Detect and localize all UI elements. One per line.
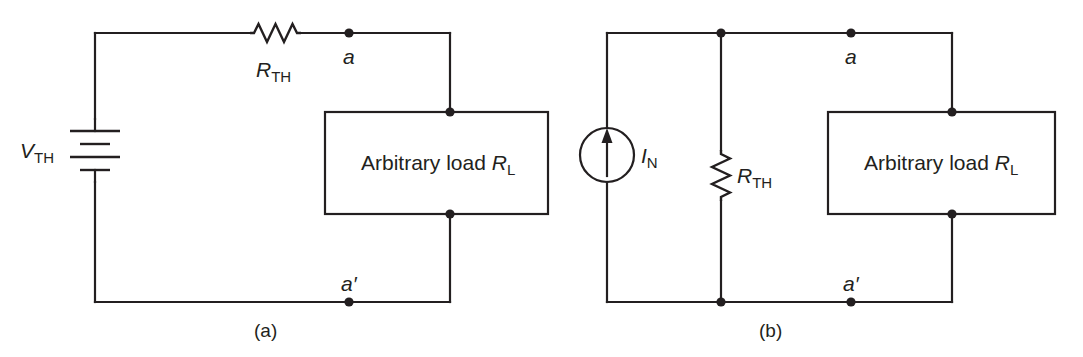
node-dot-b-load-bottom	[947, 209, 956, 218]
node-dot-a-load-top	[445, 107, 454, 116]
shunt-resistor-label-b-main: R	[737, 164, 752, 187]
node-dot-a-terminal-a	[344, 28, 353, 37]
load-label-b-main: Arbitrary load	[864, 151, 995, 174]
terminal-label-a-a: a	[343, 45, 355, 68]
load-label-a: Arbitrary load RL	[361, 151, 515, 178]
battery-icon-a	[70, 119, 120, 182]
circuit-diagram-canvas: VTH RTH a a′ Arbitrary load RL (a)	[0, 0, 1083, 357]
node-dot-a-terminal-a-prime	[344, 297, 353, 306]
figure-root: VTH RTH a a′ Arbitrary load RL (a)	[0, 0, 1083, 357]
load-label-b-sub: L	[1010, 161, 1018, 178]
shunt-resistor-label-b: RTH	[737, 164, 772, 191]
source-label-b: IN	[641, 144, 658, 171]
panel-b: IN RTH a a′ Arbitrary load RL (b)	[580, 28, 1055, 341]
load-label-b-var: R	[995, 151, 1010, 174]
terminal-label-b-a-prime: a′	[843, 272, 860, 295]
series-resistor-label-a-main: R	[256, 58, 271, 81]
node-dot-b-terminal-a	[846, 28, 855, 37]
shunt-resistor-label-b-sub: TH	[752, 174, 772, 191]
series-resistor-label-a-sub: TH	[271, 68, 291, 85]
caption-a: (a)	[254, 320, 277, 341]
source-label-a: VTH	[20, 139, 54, 166]
node-dot-b-bottom-junction	[716, 297, 725, 306]
node-dot-b-load-top	[947, 107, 956, 116]
resistor-zigzag-icon-b	[712, 150, 730, 201]
terminal-label-b-a: a	[845, 45, 857, 68]
source-label-a-sub: TH	[34, 149, 54, 166]
terminal-label-a-a-prime: a′	[341, 272, 358, 295]
series-resistor-label-a: RTH	[256, 58, 291, 85]
load-label-b: Arbitrary load RL	[864, 151, 1018, 178]
caption-b: (b)	[759, 320, 782, 341]
source-label-b-sub: N	[647, 154, 658, 171]
node-dot-a-load-bottom	[445, 209, 454, 218]
load-label-a-sub: L	[507, 161, 515, 178]
resistor-zigzag-icon-a	[250, 24, 301, 42]
load-label-a-var: R	[492, 151, 507, 174]
current-source-circle-arrow-icon-b	[580, 128, 634, 182]
node-dot-b-top-junction	[716, 28, 725, 37]
node-dot-b-terminal-a-prime	[846, 297, 855, 306]
panel-a: VTH RTH a a′ Arbitrary load RL (a)	[20, 24, 548, 341]
load-label-a-main: Arbitrary load	[361, 151, 492, 174]
